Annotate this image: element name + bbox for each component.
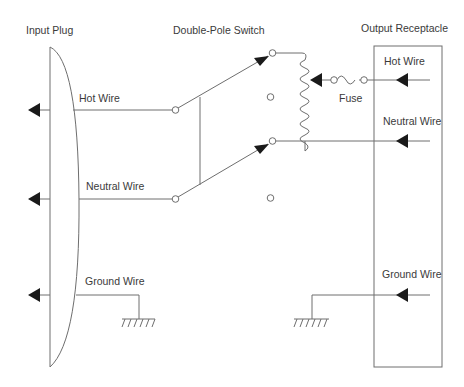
switch-input-contact-neutral <box>172 196 179 203</box>
input-hot-terminal-icon <box>28 103 40 117</box>
fuse-label: Fuse <box>339 92 362 104</box>
switch-blade-top-arrow-icon <box>254 56 269 66</box>
right-hot-wire-label: Hot Wire <box>384 55 425 67</box>
output-receptacle-label: Output Receptacle <box>361 22 448 34</box>
switch-blade-bottom <box>178 144 268 197</box>
switch-output-contact-top <box>269 50 276 57</box>
coil-icon <box>300 60 309 151</box>
input-ground-terminal-icon <box>28 288 40 302</box>
ground-icon-left <box>122 319 155 327</box>
left-neutral-wire-label: Neutral Wire <box>86 180 144 192</box>
output-ground-terminal-icon <box>396 288 408 302</box>
output-receptacle-box <box>374 46 442 367</box>
ground-icon-right <box>294 319 327 327</box>
coil-tap-arrow-icon <box>310 73 322 87</box>
switch-blade-bottom-arrow-icon <box>254 144 269 154</box>
output-neutral-terminal-icon <box>396 134 408 148</box>
left-ground-wire-label: Ground Wire <box>85 275 145 287</box>
input-neutral-terminal-icon <box>28 192 40 206</box>
right-neutral-wire-label: Neutral Wire <box>383 115 441 127</box>
switch-blade-top <box>178 56 268 108</box>
input-plug-body <box>50 47 79 367</box>
switch-input-contact-hot <box>172 107 179 114</box>
ground-wire-input <box>76 295 139 319</box>
fuse-icon <box>337 76 355 84</box>
left-hot-wire-label: Hot Wire <box>79 92 120 104</box>
fuse-contact-left <box>331 77 338 84</box>
double-pole-switch-label: Double-Pole Switch <box>173 24 265 36</box>
switch-off-contact-top <box>267 94 274 101</box>
output-hot-terminal-icon <box>396 73 408 87</box>
right-ground-wire-label: Ground Wire <box>382 268 442 280</box>
ground-wire-output <box>312 295 430 319</box>
input-plug-label: Input Plug <box>26 24 73 36</box>
switch-off-contact-bottom <box>267 195 274 202</box>
fuse-contact-right <box>361 77 368 84</box>
switch-output-contact-bottom <box>269 138 276 145</box>
